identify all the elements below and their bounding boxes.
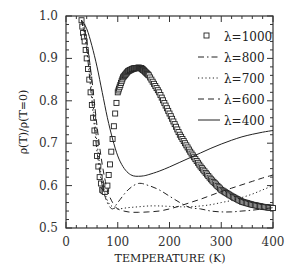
legend-marker-square xyxy=(204,33,209,38)
y-tick-label: 0.6 xyxy=(39,179,58,193)
legend-label: λ=700 xyxy=(224,72,265,86)
y-tick-label: 0.9 xyxy=(39,51,58,65)
x-tick-label: 200 xyxy=(158,235,181,249)
y-tick-label: 0.5 xyxy=(39,221,58,235)
x-axis-title: TEMPERATURE (K) xyxy=(115,252,226,265)
legend-label: λ=600 xyxy=(224,93,265,107)
y-tick-label: 0.8 xyxy=(39,94,58,108)
legend-label: λ=400 xyxy=(224,114,265,128)
resistivity-chart: λ=1000λ=800λ=700λ=600λ=400 0100200300400… xyxy=(0,0,296,278)
x-tick-label: 100 xyxy=(106,235,129,249)
x-tick-label: 0 xyxy=(62,235,70,249)
x-tick-label: 300 xyxy=(210,235,233,249)
legend-label: λ=800 xyxy=(224,51,265,65)
x-tick-label: 400 xyxy=(262,235,285,249)
axis-ticks: 01002003004000.50.60.70.80.91.0 xyxy=(39,9,285,249)
legend: λ=1000λ=800λ=700λ=600λ=400 xyxy=(198,30,272,128)
y-tick-label: 1.0 xyxy=(39,9,58,23)
y-axis-title: ρ(T)/ρ(T=0) xyxy=(17,90,30,155)
legend-label: λ=1000 xyxy=(224,30,272,44)
y-tick-label: 0.7 xyxy=(39,136,58,150)
